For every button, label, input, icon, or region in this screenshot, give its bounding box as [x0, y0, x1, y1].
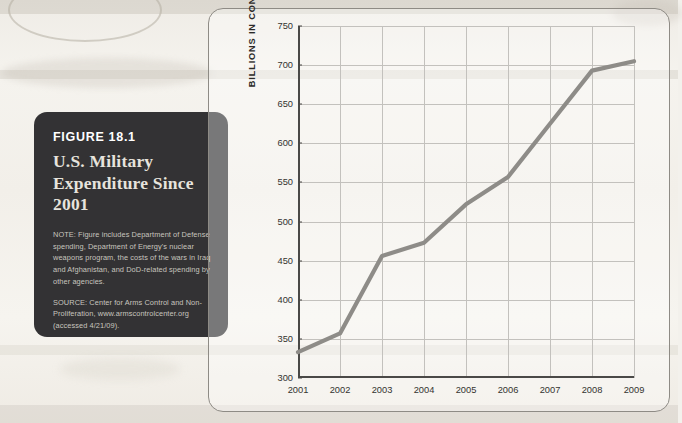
y-tick-label: 350: [277, 334, 293, 344]
x-tick-label: 2006: [498, 385, 519, 395]
x-tick-label: 2009: [624, 385, 645, 395]
x-tick-label: 2008: [582, 385, 603, 395]
y-tick-label: 300: [277, 373, 293, 383]
x-tick-label: 2007: [540, 385, 561, 395]
gridline-vertical: [634, 26, 635, 378]
scan-artifact-ring: [8, 0, 162, 42]
scan-artifact-smudge-left: [2, 58, 212, 88]
scan-artifact-smudge-bottom: [60, 358, 180, 380]
line-chart-plot-area: 300350400450500550600650700750 200120022…: [298, 26, 634, 378]
y-tick-label: 500: [277, 217, 293, 227]
x-tick-label: 2005: [456, 385, 477, 395]
x-tick-label: 2002: [330, 385, 351, 395]
y-tick-label: 700: [277, 60, 293, 70]
plot-inner: 300350400450500550600650700750 200120022…: [298, 26, 634, 378]
y-tick-label: 600: [277, 138, 293, 148]
figure-number-label: FIGURE 18.1: [53, 130, 211, 144]
y-tick-label: 750: [277, 21, 293, 31]
figure-source-text: SOURCE: Center for Arms Control and Non-…: [53, 297, 211, 332]
y-axis-title: BILLIONS IN CONSTANT DOLLARS: [247, 0, 257, 98]
figure-note-text: NOTE: Figure includes Department of Defe…: [53, 229, 211, 287]
y-tick-label: 400: [277, 295, 293, 305]
x-tick-label: 2004: [414, 385, 435, 395]
y-tick-label: 550: [277, 177, 293, 187]
figure-caption-box: FIGURE 18.1 U.S. Military Expenditure Si…: [34, 112, 228, 337]
y-tick-label: 650: [277, 99, 293, 109]
x-tick-label: 2003: [372, 385, 393, 395]
y-tick-label: 450: [277, 256, 293, 266]
x-tick-label: 2001: [288, 385, 309, 395]
data-series-line: [298, 26, 634, 378]
figure-title: U.S. Military Expenditure Since 2001: [53, 151, 211, 216]
